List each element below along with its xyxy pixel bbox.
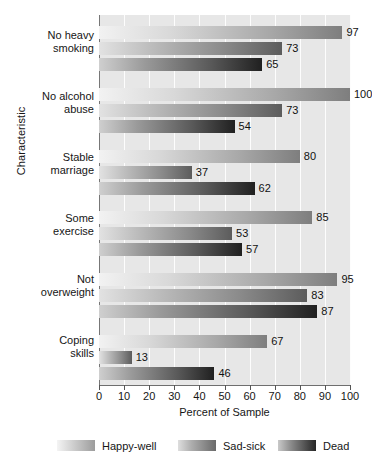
category-label-coping-skills: Coping skills [14,334,94,359]
bar-stable-marriage-sad-sick [99,166,192,179]
plot-area: 9773651007354803762855357958387671346 [99,15,350,385]
bar-value-label: 54 [239,120,251,133]
category-label-stable-marriage: Stable marriage [14,151,94,176]
legend: Happy-well Sad-sick Dead [0,436,359,454]
gridline [350,15,351,385]
legend-item-happy-well: Happy-well [57,436,156,452]
bar-value-label: 67 [271,335,283,348]
bar-no-heavy-smoking-dead [99,58,262,71]
bar-no-alcohol-abuse-happy-well [99,88,350,101]
bar-some-exercise-sad-sick [99,227,232,240]
bar-no-heavy-smoking-happy-well [99,26,342,39]
category-label-line: Some [14,212,94,225]
bar-value-label: 37 [196,166,208,179]
category-label-no-alcohol-abuse: No alcohol abuse [14,90,94,115]
bar-coping-skills-sad-sick [99,351,132,364]
bar-stable-marriage-dead [99,182,255,195]
bar-value-label: 85 [316,211,328,224]
category-label-line: No heavy [14,29,94,42]
legend-label: Dead [323,440,349,452]
category-label-line: Coping [14,334,94,347]
category-label-line: marriage [14,164,94,177]
bar-coping-skills-dead [99,367,214,380]
category-label-not-overweight: Not overweight [14,273,94,298]
category-label-line: overweight [14,286,94,299]
x-axis-tick-label: 100 [335,390,365,402]
category-label-line: smoking [14,42,94,55]
category-label-line: skills [14,347,94,360]
bar-some-exercise-happy-well [99,211,312,224]
bar-value-label: 62 [259,182,271,195]
bar-series-group: 9773651007354803762855357958387671346 [99,15,350,385]
bar-value-label: 80 [304,150,316,163]
legend-swatch-icon [178,440,216,451]
x-axis-title: Percent of Sample [99,406,350,418]
category-label-some-exercise: Some exercise [14,212,94,237]
legend-item-sad-sick: Sad-sick [178,436,265,452]
bar-value-label: 83 [311,289,323,302]
bar-value-label: 73 [286,104,298,117]
bar-no-alcohol-abuse-sad-sick [99,104,282,117]
bar-not-overweight-happy-well [99,273,337,286]
bar-value-label: 65 [266,58,278,71]
bar-value-label: 13 [136,351,148,364]
bar-stable-marriage-happy-well [99,150,300,163]
category-label-line: Not [14,273,94,286]
legend-swatch-icon [57,440,95,451]
category-label-no-heavy-smoking: No heavy smoking [14,29,94,54]
bar-value-label: 100 [354,88,372,101]
bar-value-label: 57 [246,243,258,256]
category-label-group: No heavy smoking No alcohol abuse Stable… [14,15,94,385]
bar-value-label: 97 [346,26,358,39]
legend-swatch-icon [278,440,316,451]
bar-not-overweight-sad-sick [99,289,307,302]
category-label-line: abuse [14,103,94,116]
legend-item-dead: Dead [278,436,349,452]
bar-value-label: 73 [286,42,298,55]
x-axis-tick-labels: 0102030405060708090100 [0,390,359,404]
bar-no-heavy-smoking-sad-sick [99,42,282,55]
category-label-line: exercise [14,225,94,238]
bar-coping-skills-happy-well [99,335,267,348]
bar-not-overweight-dead [99,305,317,318]
category-label-line: No alcohol [14,90,94,103]
bar-value-label: 95 [341,273,353,286]
category-label-line: Stable [14,151,94,164]
bar-value-label: 87 [321,305,333,318]
bar-value-label: 46 [218,367,230,380]
bar-no-alcohol-abuse-dead [99,120,235,133]
legend-label: Happy-well [102,440,156,452]
bar-some-exercise-dead [99,243,242,256]
legend-label: Sad-sick [223,440,265,452]
bar-value-label: 53 [236,227,248,240]
